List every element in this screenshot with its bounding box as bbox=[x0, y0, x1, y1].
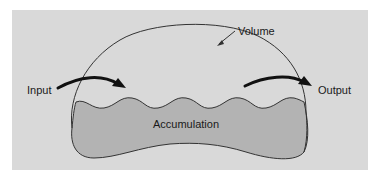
volume-label: Volume bbox=[238, 25, 275, 37]
input-label: Input bbox=[27, 84, 51, 96]
accumulation-label: Accumulation bbox=[153, 118, 219, 130]
output-label: Output bbox=[318, 84, 351, 96]
input-arrow bbox=[58, 78, 118, 88]
output-arrow bbox=[245, 77, 304, 86]
